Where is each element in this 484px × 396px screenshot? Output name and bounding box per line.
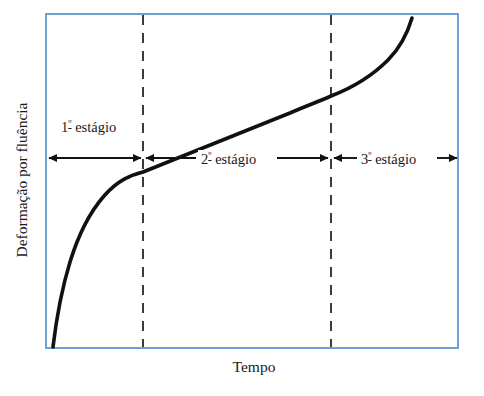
plot-frame [46, 14, 458, 348]
stage-3-word: estágio [375, 151, 416, 167]
stage-2-word: estágio [215, 151, 256, 167]
x-axis-label-container: Tempo [44, 358, 464, 376]
creep-curve-figure: 1º estágio 2º estágio 3º estágio Deforma… [0, 0, 484, 396]
stage-2-label: 2º estágio [198, 150, 259, 167]
creep-curve-plot [0, 0, 484, 396]
stage-1-word: estágio [75, 119, 116, 135]
stage-3-ordinal: º [368, 150, 371, 161]
stage-2-ordinal: º [208, 150, 211, 161]
y-axis-label: Deformação por fluência [13, 103, 31, 258]
stage-3-label: 3º estágio [358, 150, 419, 167]
y-axis-label-container: Deformação por fluência [0, 0, 44, 360]
stage-1-label: 1º estágio [58, 118, 119, 135]
x-axis-label: Tempo [233, 358, 276, 375]
stage-1-ordinal: º [68, 118, 71, 129]
